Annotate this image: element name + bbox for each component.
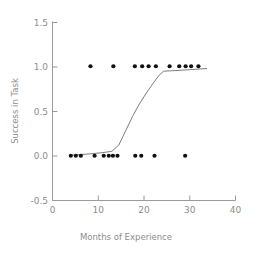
data-point xyxy=(102,154,106,158)
logistic-fit-curve xyxy=(69,68,207,155)
x-tick-label-10: 10 xyxy=(93,205,105,215)
x-axis-ticks xyxy=(53,196,236,201)
data-point xyxy=(133,154,137,158)
x-tick-label-40: 40 xyxy=(230,205,242,215)
data-point xyxy=(107,154,111,158)
data-point xyxy=(111,154,115,158)
y-tick-label-neg-0-5: -0.5 xyxy=(30,196,48,206)
y-axis-title: Success in Task xyxy=(10,78,20,144)
data-point xyxy=(196,64,200,68)
success-vs-experience-chart: 1.5 1.0 0.5 0.0 -0.5 0 10 20 30 40 Month… xyxy=(0,0,262,253)
data-point xyxy=(189,64,193,68)
x-tick-label-0: 0 xyxy=(50,205,56,215)
data-point xyxy=(74,154,78,158)
data-point xyxy=(168,64,172,68)
y-tick-label-0-0: 0.0 xyxy=(34,151,49,161)
x-tick-label-20: 20 xyxy=(138,205,150,215)
data-point xyxy=(111,64,115,68)
data-point xyxy=(184,64,188,68)
data-point xyxy=(140,64,144,68)
data-point xyxy=(79,154,83,158)
data-point xyxy=(92,154,96,158)
chart-container: 1.5 1.0 0.5 0.0 -0.5 0 10 20 30 40 Month… xyxy=(0,0,262,253)
data-point xyxy=(177,64,181,68)
y-tick-label-0-5: 0.5 xyxy=(34,107,48,117)
data-point xyxy=(183,154,187,158)
data-point xyxy=(133,64,137,68)
data-point xyxy=(152,154,156,158)
data-point xyxy=(139,154,143,158)
data-points-layer xyxy=(69,64,201,158)
data-point xyxy=(115,154,119,158)
x-tick-label-30: 30 xyxy=(184,205,196,215)
y-tick-label-1-0: 1.0 xyxy=(34,62,49,72)
y-axis-ticks xyxy=(53,23,58,201)
data-point xyxy=(69,154,73,158)
x-axis-title: Months of Experience xyxy=(80,232,172,242)
data-point xyxy=(88,64,92,68)
y-tick-label-1-5: 1.5 xyxy=(34,18,48,28)
data-point xyxy=(146,64,150,68)
data-point xyxy=(154,64,158,68)
